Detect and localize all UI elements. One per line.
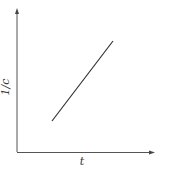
kinetics-plot: t 1/c [0, 0, 169, 178]
data-line [52, 41, 113, 121]
y-axis-arrow-icon [15, 8, 19, 14]
x-axis-arrow-icon [149, 151, 155, 155]
y-axis-label: 1/c [0, 79, 12, 96]
x-axis-label: t [80, 155, 85, 168]
